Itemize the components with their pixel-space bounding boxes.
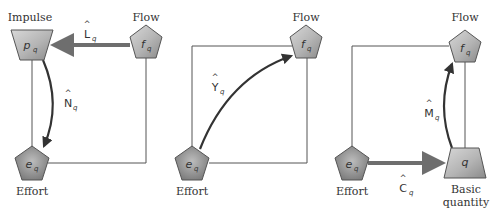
basic-label-line2: quantity [443, 196, 490, 209]
operator-subscript: q [92, 35, 97, 43]
c-operator-label: ^ C q [399, 174, 414, 197]
operator-subscript: q [220, 88, 225, 96]
operator-subscript: q [435, 114, 440, 122]
effort-symbol: e [26, 158, 33, 171]
flow-node: f q Flow [449, 11, 481, 62]
basic-quantity-node: q Basic quantity [443, 148, 490, 209]
y-operator-label: ^ Y q [211, 73, 225, 96]
flow-subscript: q [147, 45, 152, 53]
impulse-symbol: p [23, 39, 31, 52]
m-operator-arrow [444, 64, 452, 148]
effort-subscript: q [354, 165, 359, 173]
basic-symbol: q [462, 156, 469, 169]
effort-symbol: e [346, 158, 353, 171]
flow-label: Flow [292, 11, 320, 24]
y-operator-arrow [200, 56, 291, 149]
panel-3: f q Flow e q Effort q Basic quantity ^ M… [335, 11, 490, 209]
n-operator-arrow [43, 60, 53, 146]
effort-node: e q Effort [175, 146, 209, 198]
pentagon-shape [449, 30, 481, 62]
impulse-node: p q Impulse [8, 11, 53, 60]
operator-letter: L [84, 28, 91, 41]
effort-flow-line-top [352, 46, 449, 150]
effort-node: e q Effort [15, 146, 49, 198]
l-operator-label: ^ L q [84, 20, 97, 43]
flow-subscript: q [307, 45, 312, 53]
effort-symbol: e [186, 158, 193, 171]
n-operator-label: ^ N q [64, 89, 78, 112]
flow-effort-line [48, 58, 146, 163]
flow-label: Flow [132, 11, 160, 24]
pentagon-shape [290, 25, 322, 58]
operator-letter: N [64, 97, 72, 110]
effort-label: Effort [176, 185, 209, 198]
flow-node: f q Flow [290, 11, 322, 58]
panel-1: p q Impulse f q Flow e q Effort ^ L q ^ … [8, 11, 162, 198]
effort-subscript: q [34, 165, 39, 173]
flow-label: Flow [451, 11, 479, 24]
operator-subscript: q [409, 189, 414, 197]
operator-letter: Y [211, 81, 219, 94]
operator-letter: M [424, 107, 434, 120]
effort-node: e q Effort [335, 146, 369, 198]
pentagon-shape [130, 25, 162, 58]
effort-label: Effort [336, 185, 369, 198]
trapezoid-shape [11, 30, 53, 60]
impulse-subscript: q [33, 46, 38, 54]
flow-node: f q Flow [130, 11, 162, 58]
effort-subscript: q [194, 165, 199, 173]
panel-2: f q Flow e q Effort ^ Y q [175, 11, 322, 198]
operator-letter: C [399, 182, 407, 195]
m-operator-label: ^ M q [424, 99, 440, 122]
basic-label-line1: Basic [451, 183, 481, 196]
diagram-canvas: p q Impulse f q Flow e q Effort ^ L q ^ … [0, 0, 499, 216]
operator-subscript: q [73, 104, 78, 112]
impulse-label: Impulse [8, 11, 53, 24]
flow-subscript: q [466, 49, 471, 57]
effort-label: Effort [16, 185, 49, 198]
